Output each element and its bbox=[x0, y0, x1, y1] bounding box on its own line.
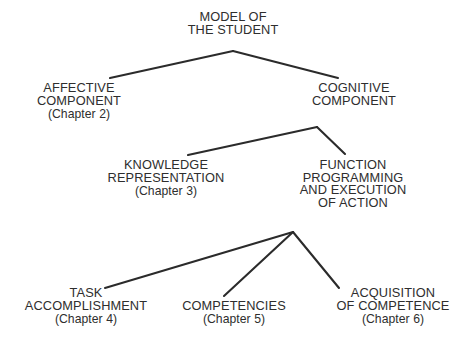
connector-function-to-competencies bbox=[224, 232, 293, 296]
node-label-line: ACCOMPLISHMENT bbox=[25, 300, 147, 313]
node-competencies: COMPETENCIES(Chapter 5) bbox=[182, 300, 286, 326]
node-label-line: THE STUDENT bbox=[188, 24, 279, 37]
node-label-line: COMPETENCIES bbox=[182, 300, 286, 313]
connector-cognitive-to-function bbox=[317, 127, 345, 154]
node-label-line: OF ACTION bbox=[300, 197, 407, 210]
node-chapter-reference: (Chapter 6) bbox=[337, 312, 450, 325]
node-chapter-reference: (Chapter 5) bbox=[182, 313, 286, 326]
node-function-programming-and-execution-of-action: FUNCTIONPROGRAMMINGAND EXECUTIONOF ACTIO… bbox=[300, 159, 407, 209]
node-task-accomplishment: TASKACCOMPLISHMENT(Chapter 4) bbox=[25, 287, 147, 325]
connector-function-to-acquisition bbox=[293, 232, 339, 288]
node-label-line: COMPONENT bbox=[312, 95, 396, 108]
node-label-line: REPRESENTATION bbox=[108, 172, 225, 185]
node-label-line: OF COMPETENCE bbox=[337, 300, 450, 313]
node-chapter-reference: (Chapter 3) bbox=[108, 184, 225, 197]
hierarchy-diagram: MODEL OFTHE STUDENTAFFECTIVECOMPONENT(Ch… bbox=[0, 0, 465, 352]
node-chapter-reference: (Chapter 2) bbox=[37, 107, 121, 120]
connector-model-to-affective bbox=[110, 51, 233, 78]
connector-function-to-task bbox=[105, 232, 293, 288]
connector-model-to-cognitive bbox=[233, 51, 338, 78]
node-label-line: COMPONENT bbox=[37, 95, 121, 108]
node-cognitive-component: COGNITIVECOMPONENT bbox=[312, 82, 396, 107]
node-acquisition-of-competence: ACQUISITIONOF COMPETENCE(Chapter 6) bbox=[337, 287, 450, 325]
node-affective-component: AFFECTIVECOMPONENT(Chapter 2) bbox=[37, 82, 121, 120]
node-model-of-the-student: MODEL OFTHE STUDENT bbox=[188, 11, 279, 36]
node-chapter-reference: (Chapter 4) bbox=[25, 312, 147, 325]
connector-cognitive-to-knowledge bbox=[188, 127, 317, 155]
node-knowledge-representation: KNOWLEDGEREPRESENTATION(Chapter 3) bbox=[108, 159, 225, 197]
